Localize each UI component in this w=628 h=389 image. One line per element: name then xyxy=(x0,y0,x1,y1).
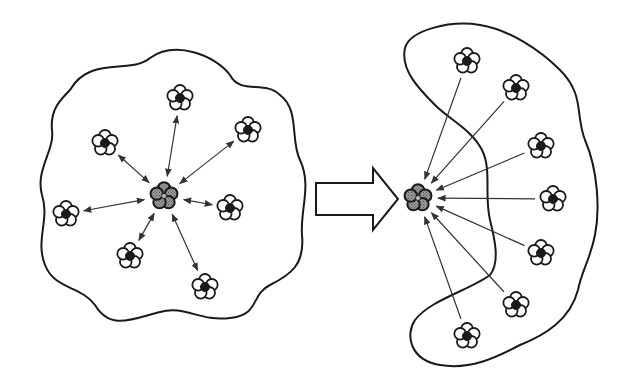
right-peripheral-cluster-7 xyxy=(454,323,479,348)
inward-arrow-4 xyxy=(438,198,535,199)
inward-arrow-7 xyxy=(425,217,461,319)
left-peripheral-cluster-3 xyxy=(235,117,260,142)
right-central-cluster xyxy=(405,184,432,210)
bidirectional-arrow-5 xyxy=(184,200,213,205)
inward-arrow-3 xyxy=(436,153,524,190)
cell-signaling-diagram xyxy=(0,0,628,389)
right-tissue-boundary xyxy=(404,24,597,366)
bidirectional-arrow-2 xyxy=(118,155,149,183)
right-peripheral-cluster-6 xyxy=(503,292,528,317)
inward-arrow-6 xyxy=(432,213,504,292)
bidirectional-arrow-3 xyxy=(180,141,234,184)
diagram-canvas xyxy=(0,0,628,389)
signal-arrows xyxy=(84,78,535,319)
right-peripheral-cluster-2 xyxy=(503,75,528,100)
left-peripheral-cluster-2 xyxy=(92,130,117,155)
right-peripheral-cluster-5 xyxy=(528,240,553,265)
bidirectional-arrow-6 xyxy=(139,213,154,240)
left-peripheral-cluster-5 xyxy=(217,195,242,220)
left-central-cluster xyxy=(151,182,178,208)
cell-clusters xyxy=(53,48,565,348)
left-peripheral-cluster-1 xyxy=(167,85,192,110)
right-peripheral-cluster-3 xyxy=(528,133,553,158)
left-peripheral-cluster-6 xyxy=(117,243,142,268)
bidirectional-arrow-1 xyxy=(167,116,177,176)
transition-block-arrow xyxy=(316,168,398,230)
left-peripheral-cluster-4 xyxy=(53,201,78,226)
inward-arrow-2 xyxy=(431,101,504,183)
bidirectional-arrow-7 xyxy=(172,214,197,270)
inward-arrow-1 xyxy=(425,78,461,179)
right-peripheral-cluster-1 xyxy=(454,48,479,73)
bidirectional-arrow-4 xyxy=(84,200,145,211)
right-peripheral-cluster-4 xyxy=(540,186,565,211)
left-peripheral-cluster-7 xyxy=(192,274,217,299)
inward-arrow-5 xyxy=(436,206,524,245)
